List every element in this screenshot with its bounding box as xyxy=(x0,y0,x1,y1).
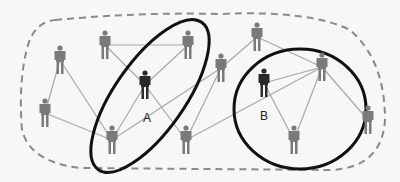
network-diagram: A B xyxy=(0,0,400,182)
edge xyxy=(294,67,322,140)
group-B-outline xyxy=(234,49,366,169)
person-icon xyxy=(181,125,192,154)
edge xyxy=(105,45,145,85)
edge xyxy=(186,68,221,140)
nodes-layer xyxy=(40,22,374,154)
edge xyxy=(145,45,188,85)
edge xyxy=(112,68,221,140)
person-icon xyxy=(107,125,118,154)
groups-layer xyxy=(70,2,366,182)
community-boundary xyxy=(21,13,385,170)
label-a: A xyxy=(143,111,151,125)
person-icon xyxy=(183,30,194,59)
person-icon xyxy=(363,105,374,134)
person-icon xyxy=(252,22,263,51)
edge xyxy=(322,67,368,120)
network-svg xyxy=(0,0,400,182)
edge xyxy=(60,60,112,140)
person-icon xyxy=(100,30,111,59)
edge xyxy=(264,67,322,83)
label-b: B xyxy=(260,109,268,123)
person-icon xyxy=(140,70,151,99)
person-icon xyxy=(259,68,270,97)
person-icon xyxy=(216,53,227,82)
person-icon xyxy=(55,45,66,74)
edge xyxy=(45,113,112,140)
edge xyxy=(257,37,322,67)
person-icon xyxy=(40,98,51,127)
